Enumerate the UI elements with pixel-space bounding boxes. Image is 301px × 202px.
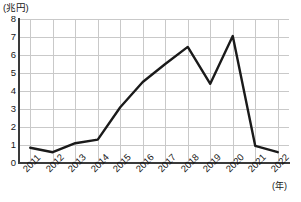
line-chart: (兆円) 012345678 2011201220132014201520162… — [0, 0, 301, 202]
series-line — [30, 36, 278, 152]
series-line-group — [0, 0, 301, 202]
